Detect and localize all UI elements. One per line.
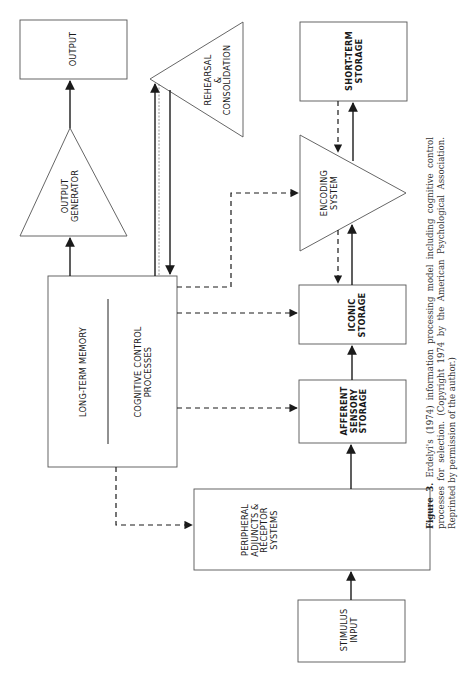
stimulus-input-label: STIMULUS INPUT	[340, 609, 359, 652]
figure-page: OUTPUT OUTPUT GENERATOR LONG-TERM MEMORY…	[0, 0, 470, 677]
caption-label: Figure 3.	[425, 483, 435, 529]
rehearsal-label: REHEARSAL & CONSOLIDATION	[204, 45, 233, 116]
peripheral-box	[194, 489, 430, 570]
output-label: OUTPUT	[69, 32, 79, 67]
figure-caption: Figure 3. Erdelyi's (1974) information p…	[425, 137, 458, 529]
diagram-canvas	[0, 0, 470, 677]
short-term-storage-label: SHORT-TERM STORAGE	[345, 31, 364, 91]
dashed-ltm-to-peripheral	[116, 467, 192, 525]
long-term-memory-label: LONG-TERM MEMORY	[79, 327, 89, 417]
dashed-control-to-encoding	[177, 193, 298, 287]
caption-text: Erdelyi's (1974) information processing …	[425, 137, 457, 529]
iconic-storage-label: ICONIC STORAGE	[348, 293, 367, 338]
cognitive-control-label: COGNITIVE CONTROL PROCESSES	[134, 326, 153, 417]
long-term-memory-box	[48, 276, 177, 467]
peripheral-label: PERIPHERAL ADJUNCTS & RECEPTOR SYSTEMS	[241, 503, 279, 556]
encoding-system-label: ENCODING SYSTEM	[320, 170, 339, 216]
afferent-storage-label: AFFERENT SENSORY STORAGE	[340, 386, 369, 435]
output-generator-label: OUTPUT GENERATOR	[61, 170, 80, 222]
